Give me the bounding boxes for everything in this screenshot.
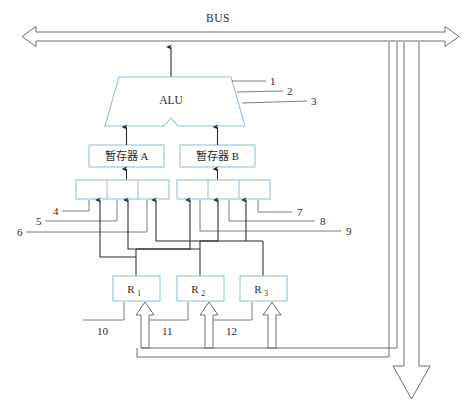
- cpu-datapath-diagram: BUS ALU 暂存器 A 暂存器 B: [0, 0, 464, 406]
- callout-label-6: 6: [17, 226, 23, 238]
- register-r2-subscript: 2: [201, 289, 205, 298]
- callout-label-7: 7: [297, 206, 303, 218]
- diagram-canvas: BUS ALU 暂存器 A 暂存器 B: [0, 0, 464, 406]
- callout-label-4: 4: [53, 205, 59, 217]
- mux-a-box: [76, 180, 169, 199]
- bus-down-arrowhead: [393, 366, 430, 399]
- bus-bar: [22, 27, 459, 47]
- register-fanout-wires: [100, 212, 263, 276]
- callout-label-12: 12: [226, 325, 237, 337]
- bus-to-r1-arrow: [136, 302, 154, 348]
- temp-register-b-label: 暂存器 B: [196, 149, 239, 162]
- temp-register-a-label: 暂存器 A: [105, 149, 149, 162]
- callout-line-7: [258, 200, 292, 212]
- callout-line-6: [26, 200, 147, 232]
- callout-label-2: 2: [287, 85, 293, 97]
- callout-label-10: 10: [97, 325, 109, 337]
- mux-b-box: [177, 180, 270, 199]
- callout-label-3: 3: [311, 95, 317, 107]
- callout-line-12: [211, 302, 252, 320]
- callout-line-11: [147, 302, 188, 320]
- bus-to-r3-arrow: [263, 302, 281, 348]
- callout-label-1: 1: [270, 75, 276, 87]
- mux-input-arrowheads: [100, 200, 246, 212]
- callout-label-9: 9: [346, 225, 352, 237]
- alu-label: ALU: [159, 94, 183, 106]
- callout-label-8: 8: [320, 215, 326, 227]
- callout-line-10: [83, 302, 124, 320]
- register-r2-label: R: [191, 283, 199, 295]
- callout-line-4: [62, 200, 89, 211]
- register-r3-label: R: [254, 283, 262, 295]
- callout-label-11: 11: [162, 325, 173, 337]
- bus-label: BUS: [206, 12, 230, 24]
- register-r1-label: R: [127, 283, 135, 295]
- register-r1-subscript: 1: [137, 289, 141, 298]
- bus-to-r2-arrow: [200, 302, 218, 348]
- callout-label-5: 5: [36, 215, 42, 227]
- register-r3-subscript: 3: [264, 289, 268, 298]
